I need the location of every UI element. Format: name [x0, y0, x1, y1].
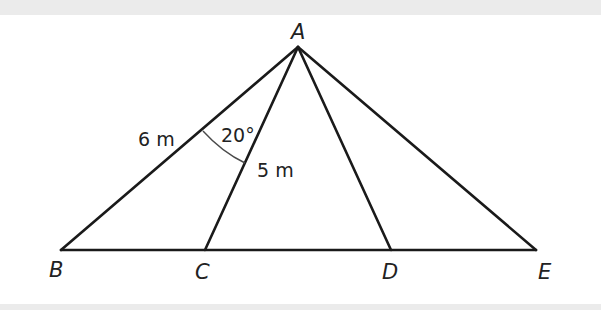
length-label-AC: 5 m: [257, 159, 294, 181]
vertex-label-A: A: [289, 20, 305, 44]
vertex-label-C: C: [195, 260, 210, 284]
triangle-diagram: A B C D E 6 m 20° 5 m: [0, 0, 601, 310]
angle-label-BAC: 20°: [221, 124, 255, 146]
diagram-canvas: A B C D E 6 m 20° 5 m: [0, 0, 601, 310]
vertex-label-B: B: [49, 258, 63, 282]
segment-AD: [298, 47, 391, 250]
length-label-AB: 6 m: [138, 128, 175, 150]
segment-AC: [205, 47, 298, 250]
segment-AE: [298, 47, 536, 250]
segment-AB: [61, 47, 298, 250]
vertex-label-E: E: [538, 260, 552, 284]
vertex-label-D: D: [382, 260, 398, 284]
